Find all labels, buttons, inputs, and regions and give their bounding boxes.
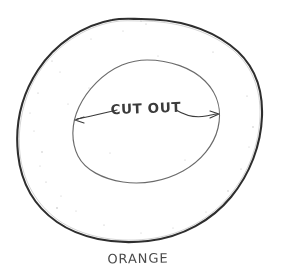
cut-out-label: CUT OUT [110,99,181,117]
orange-caption-group: ORANGE [107,250,168,266]
orange-caption: ORANGE [107,250,168,266]
paper-speckles [30,23,254,233]
arrow-head-left [75,117,84,123]
cut-out-label-group: CUT OUT [110,99,181,117]
sketch-canvas: CUT OUT ORANGE [0,0,282,279]
outer-circle-group [17,19,262,242]
orange-peel-outline [17,19,262,242]
orange-peel-outline-shadow [19,21,260,240]
orange-diagram-svg: CUT OUT ORANGE [0,0,282,279]
cut-out-region [73,60,220,183]
inner-circle-group [73,60,220,183]
